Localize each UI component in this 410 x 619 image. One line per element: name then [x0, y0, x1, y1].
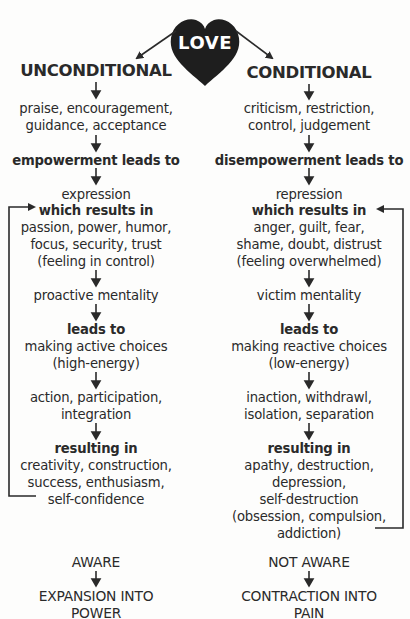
right-line: self-destruction	[199, 491, 410, 508]
right-line: anger, guilt, fear,	[199, 219, 410, 236]
right-line: isolation, separation	[199, 406, 410, 423]
left-line: praise, encouragement,	[0, 100, 206, 117]
right-line: making reactive choices	[199, 338, 410, 355]
not-aware-label: NOT AWARE	[199, 554, 410, 571]
right-line: control, judgement	[199, 117, 410, 134]
left-line: self-confidence	[0, 491, 206, 508]
right-line: inaction, withdrawl,	[199, 389, 410, 406]
arrow-to-conditional	[236, 31, 272, 58]
left-step-label: which results in	[0, 202, 206, 219]
pain-label: PAIN	[199, 605, 410, 619]
left-line: making active choices	[0, 338, 206, 355]
left-line: (feeling in control)	[0, 253, 206, 270]
right-step-label: resulting in	[199, 440, 410, 457]
right-line: shame, doubt, distrust	[199, 236, 410, 253]
right-line: apathy, destruction,	[199, 457, 410, 474]
left-line: expression	[0, 186, 206, 203]
right-step-label: which results in	[199, 202, 410, 219]
right-step-label: disempowerment leads to	[199, 152, 410, 169]
right-step-label: leads to	[199, 321, 410, 338]
left-step-label: resulting in	[0, 440, 206, 457]
right-line: criticism, restriction,	[199, 100, 410, 117]
left-line: focus, security, trust	[0, 236, 206, 253]
unconditional-heading: UNCONDITIONAL	[0, 61, 206, 80]
right-line: depression,	[199, 474, 410, 491]
love-label: LOVE	[170, 32, 240, 53]
left-line: passion, power, humor,	[0, 219, 206, 236]
left-line: action, participation,	[0, 389, 206, 406]
love-diagram: LOVE UNCONDITIONAL CONDITIONAL praise, e…	[0, 0, 410, 619]
left-line: proactive mentality	[0, 287, 206, 304]
left-line: guidance, acceptance	[0, 117, 206, 134]
right-line: addiction)	[199, 525, 410, 542]
left-step-label: leads to	[0, 321, 206, 338]
conditional-heading: CONDITIONAL	[199, 63, 410, 82]
left-line: creativity, construction,	[0, 457, 206, 474]
contraction-label: CONTRACTION INTO	[199, 588, 410, 605]
left-line: integration	[0, 406, 206, 423]
power-label: POWER	[0, 605, 206, 619]
aware-label: AWARE	[0, 554, 206, 571]
left-step-label: empowerment leads to	[0, 152, 206, 169]
expansion-label: EXPANSION INTO	[0, 588, 206, 605]
right-line: victim mentality	[199, 287, 410, 304]
right-line: (obsession, compulsion,	[199, 508, 410, 525]
left-line: success, enthusiasm,	[0, 474, 206, 491]
left-line: (high-energy)	[0, 355, 206, 372]
right-line: repression	[199, 186, 410, 203]
right-line: (feeling overwhelmed)	[199, 253, 410, 270]
right-line: (low-energy)	[199, 355, 410, 372]
